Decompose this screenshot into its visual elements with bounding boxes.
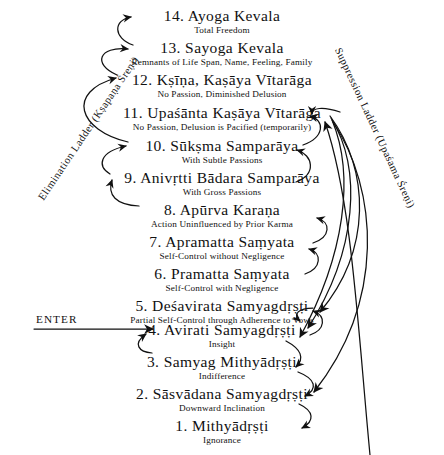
stage-2[interactable]: 2. Sāsvādana Samyagdṛṣṭi Downward Inclin…	[0, 386, 444, 413]
stage-9[interactable]: 9. Anivṛtti Bādara Samparāya With Gross …	[0, 170, 444, 197]
gunasthana-diagram: 14. Ayoga Kevala Total Freedom 13. Sayog…	[0, 0, 444, 455]
stage-12-title: 12. Kṣīṇa, Kaṣāya Vītarāga	[0, 72, 444, 88]
stage-13-subtitle: Remnants of Life Span, Name, Feeling, Fa…	[0, 58, 444, 67]
stage-8-title: 8. Apūrva Karaṇa	[0, 202, 444, 218]
stage-13-title: 13. Sayoga Kevala	[0, 40, 444, 56]
stage-14[interactable]: 14. Ayoga Kevala Total Freedom	[0, 8, 444, 35]
stage-14-subtitle: Total Freedom	[0, 26, 444, 35]
stage-7-title: 7. Apramatta Saṃyata	[0, 234, 444, 250]
stage-2-subtitle: Downward Inclination	[0, 404, 444, 413]
stage-6-title: 6. Pramatta Saṃyata	[0, 266, 444, 282]
stage-9-subtitle: With Gross Passions	[0, 188, 444, 197]
stage-3[interactable]: 3. Samyag Mithyādṛṣṭi Indifference	[0, 354, 444, 381]
stage-3-title: 3. Samyag Mithyādṛṣṭi	[0, 354, 444, 370]
enter-label: ENTER	[36, 313, 78, 325]
stage-6[interactable]: 6. Pramatta Saṃyata Self-Control with Ne…	[0, 266, 444, 293]
stage-3-subtitle: Indifference	[0, 372, 444, 381]
stage-8-subtitle: Action Uninfluenced by Prior Karma	[0, 220, 444, 229]
stage-9-title: 9. Anivṛtti Bādara Samparāya	[0, 170, 444, 186]
stage-2-title: 2. Sāsvādana Samyagdṛṣṭi	[0, 386, 444, 402]
stage-7[interactable]: 7. Apramatta Saṃyata Self-Control withou…	[0, 234, 444, 261]
stage-11-title: 11. Upaśānta Kaṣāya Vītarāga	[0, 105, 444, 121]
stage-12-subtitle: No Passion, Diminished Delusion	[0, 90, 444, 99]
stage-1-title: 1. Mithyādṛṣṭi	[0, 418, 444, 434]
stage-8[interactable]: 8. Apūrva Karaṇa Action Uninfluenced by …	[0, 202, 444, 229]
stage-4[interactable]: 4. Avirati Samyagdṛṣṭi Insight	[0, 322, 444, 349]
stage-12[interactable]: 12. Kṣīṇa, Kaṣāya Vītarāga No Passion, D…	[0, 72, 444, 99]
stage-7-subtitle: Self-Control without Negligence	[0, 252, 444, 261]
stage-13[interactable]: 13. Sayoga Kevala Remnants of Life Span,…	[0, 40, 444, 67]
stage-4-subtitle: Insight	[0, 340, 444, 349]
stage-1-subtitle: Ignorance	[0, 436, 444, 445]
stage-14-title: 14. Ayoga Kevala	[0, 8, 444, 24]
stage-5-title: 5. Deśavirata Samyagdṛṣṭi	[0, 298, 444, 314]
stage-6-subtitle: Self-Control with Negligence	[0, 284, 444, 293]
stage-1[interactable]: 1. Mithyādṛṣṭi Ignorance	[0, 418, 444, 445]
